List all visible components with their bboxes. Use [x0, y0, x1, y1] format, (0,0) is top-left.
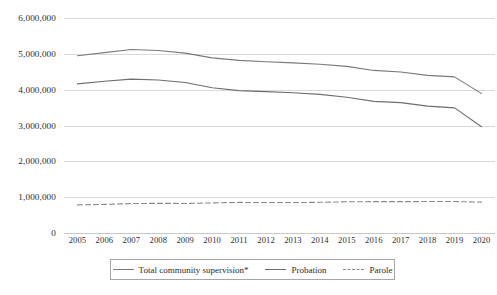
x-tick-label: 2012 [257, 235, 275, 245]
legend-line-icon [343, 266, 364, 273]
series-line [77, 50, 481, 94]
plot-area [64, 18, 495, 233]
x-tick-label: 2018 [419, 235, 437, 245]
y-tick-label: 2,000,000 [18, 156, 56, 166]
legend-label: Total community supervision* [139, 265, 249, 275]
series-line [77, 202, 481, 205]
x-tick-label: 2019 [446, 235, 464, 245]
chart-legend: Total community supervision*ProbationPar… [110, 259, 395, 280]
series-line [77, 79, 481, 127]
x-axis: 2005200620072008200920102011201220132014… [64, 234, 495, 252]
y-tick-label: 4,000,000 [18, 85, 56, 95]
x-tick-label: 2006 [96, 235, 114, 245]
legend-label: Parole [369, 265, 392, 275]
x-tick-label: 2015 [338, 235, 356, 245]
x-tick-label: 2017 [392, 235, 410, 245]
x-tick-label: 2014 [311, 235, 329, 245]
x-tick-label: 2013 [284, 235, 302, 245]
legend-item[interactable]: Probation [265, 265, 326, 275]
y-tick-label: 3,000,000 [18, 121, 56, 131]
y-tick-label: 1,000,000 [18, 192, 56, 202]
x-tick-label: 2007 [123, 235, 141, 245]
legend-label: Probation [291, 265, 326, 275]
legend-line-icon [113, 266, 134, 273]
legend-line-icon [265, 266, 286, 273]
y-tick-label: 5,000,000 [18, 49, 56, 59]
line-chart: 01,000,0002,000,0003,000,0004,000,0005,0… [0, 0, 497, 295]
x-tick-label: 2005 [69, 235, 87, 245]
y-axis: 01,000,0002,000,0003,000,0004,000,0005,0… [0, 0, 62, 240]
legend-item[interactable]: Parole [343, 265, 392, 275]
legend-item[interactable]: Total community supervision* [113, 265, 249, 275]
x-tick-label: 2020 [473, 235, 491, 245]
x-tick-label: 2016 [365, 235, 383, 245]
y-tick-label: 0 [51, 228, 56, 238]
x-tick-label: 2009 [176, 235, 194, 245]
x-tick-label: 2011 [230, 235, 247, 245]
plot-lines [64, 18, 495, 233]
y-tick-label: 6,000,000 [18, 13, 56, 23]
x-tick-label: 2010 [203, 235, 221, 245]
x-tick-label: 2008 [149, 235, 167, 245]
